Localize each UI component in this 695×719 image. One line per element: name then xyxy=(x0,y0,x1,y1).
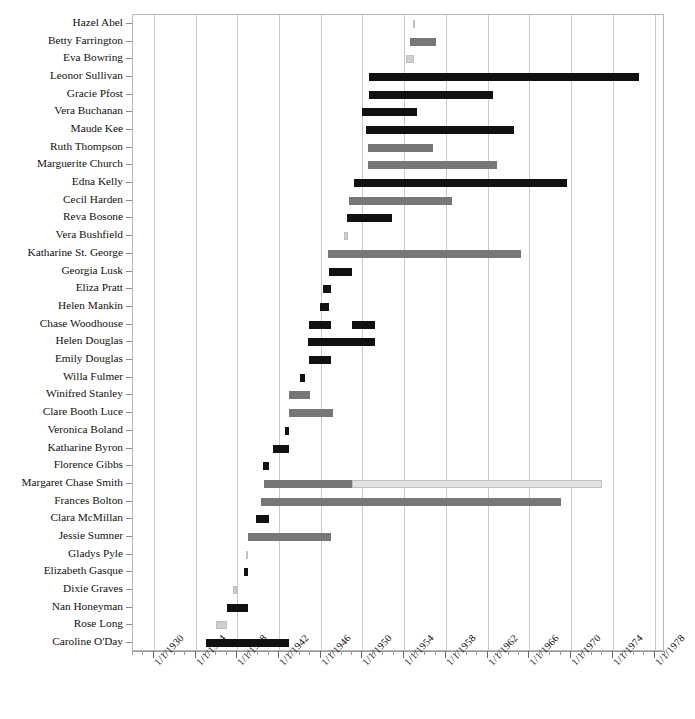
y-axis-label: Vera Buchanan xyxy=(54,104,123,116)
y-axis-label: Clare Booth Luce xyxy=(43,405,123,417)
gantt-bar xyxy=(328,250,521,258)
y-axis-label: Georgia Lusk xyxy=(61,264,123,276)
gridline xyxy=(321,15,322,650)
gantt-bar xyxy=(349,197,452,205)
y-axis-label: Frances Bolton xyxy=(54,494,123,506)
gantt-bar xyxy=(248,533,331,541)
x-axis-minor-tick xyxy=(393,651,394,655)
gantt-bar xyxy=(216,621,226,629)
gridline xyxy=(613,15,614,650)
gridline xyxy=(154,15,155,650)
gantt-bar xyxy=(413,20,415,28)
gridline xyxy=(571,15,572,650)
gantt-bar xyxy=(289,391,310,399)
x-axis-minor-tick xyxy=(351,651,352,655)
y-axis-label: Cecil Harden xyxy=(63,193,123,205)
gantt-bar xyxy=(264,480,352,488)
y-axis-label: Helen Douglas xyxy=(56,334,123,346)
gantt-bar xyxy=(369,73,639,81)
y-axis-label: Helen Mankin xyxy=(58,299,123,311)
gantt-bar xyxy=(309,356,331,364)
gantt-bar xyxy=(246,551,248,559)
y-axis-label: Elizabeth Gasque xyxy=(44,564,123,576)
gantt-bar xyxy=(285,427,289,435)
y-axis-label: Leonor Sullivan xyxy=(50,69,123,81)
gantt-bar xyxy=(323,285,331,293)
y-axis-label: Eliza Pratt xyxy=(76,281,123,293)
x-axis-minor-tick xyxy=(601,651,602,655)
y-axis-label: Gracie Pfost xyxy=(67,87,123,99)
gantt-bar xyxy=(329,268,352,276)
y-axis-label: Marguerite Church xyxy=(37,157,123,169)
gridline xyxy=(446,15,447,650)
x-axis-minor-tick xyxy=(435,651,436,655)
y-axis-label: Katharine St. George xyxy=(28,246,123,258)
x-axis-minor-tick xyxy=(184,651,185,655)
gantt-bar xyxy=(362,108,416,116)
gridline xyxy=(488,15,489,650)
y-axis-label: Dixie Graves xyxy=(63,582,123,594)
x-axis-minor-tick xyxy=(518,651,519,655)
gantt-bar xyxy=(308,338,375,346)
y-axis-label: Caroline O'Day xyxy=(52,635,123,647)
y-axis-label: Nan Honeyman xyxy=(52,600,123,612)
gantt-bar xyxy=(344,232,348,240)
y-axis-label: Vera Bushfield xyxy=(56,228,123,240)
gantt-bar xyxy=(352,321,375,329)
y-axis-label: Willa Fulmer xyxy=(63,370,123,382)
y-axis-label: Jessie Sumner xyxy=(59,529,123,541)
y-axis-label: Margaret Chase Smith xyxy=(22,476,123,488)
x-axis-minor-tick xyxy=(643,651,644,655)
y-axis-label: Chase Woodhouse xyxy=(40,317,123,329)
x-axis-minor-tick xyxy=(476,651,477,655)
y-axis-label: Betty Farrington xyxy=(48,34,123,46)
y-axis-label: Edna Kelly xyxy=(72,175,123,187)
gantt-bar xyxy=(244,568,248,576)
gantt-chart: Hazel AbelBetty FarringtonEva BowringLeo… xyxy=(0,0,695,719)
gantt-bar xyxy=(354,179,567,187)
y-axis-label: Ruth Thompson xyxy=(50,140,123,152)
gantt-bar xyxy=(352,480,602,488)
x-axis-minor-tick xyxy=(560,651,561,655)
x-axis: 1/1/19301/1/19341/1/19381/1/19421/1/1946… xyxy=(132,651,664,719)
gantt-bar xyxy=(369,91,493,99)
y-axis-label: Maude Kee xyxy=(71,122,123,134)
gridline xyxy=(279,15,280,650)
y-axis-label: Katharine Byron xyxy=(47,441,123,453)
gantt-bar xyxy=(309,321,331,329)
gridline xyxy=(529,15,530,650)
gantt-bar xyxy=(368,144,434,152)
y-axis-label: Florence Gibbs xyxy=(54,458,123,470)
x-axis-minor-tick xyxy=(142,651,143,655)
y-axis-label: Gladys Pyle xyxy=(68,547,123,559)
y-axis-label: Emily Douglas xyxy=(55,352,123,364)
gantt-bar xyxy=(410,38,435,46)
gantt-bar xyxy=(233,586,237,594)
gantt-bar xyxy=(256,515,269,523)
gantt-bar xyxy=(368,161,497,169)
gantt-bar xyxy=(227,604,248,612)
gantt-bar xyxy=(300,374,305,382)
x-axis-minor-tick xyxy=(226,651,227,655)
gridline xyxy=(237,15,238,650)
y-axis-label: Veronica Boland xyxy=(47,423,123,435)
gantt-bar xyxy=(406,55,413,63)
y-axis-label: Reva Bosone xyxy=(63,210,123,222)
gridline xyxy=(655,15,656,650)
y-axis-label: Rose Long xyxy=(74,617,123,629)
x-axis-minor-tick xyxy=(132,651,133,655)
gantt-bar xyxy=(320,303,329,311)
y-axis-label: Hazel Abel xyxy=(73,16,124,28)
y-axis-label: Clara McMillan xyxy=(51,511,123,523)
y-axis-label: Eva Bowring xyxy=(63,51,123,63)
y-axis: Hazel AbelBetty FarringtonEva BowringLeo… xyxy=(0,14,132,651)
x-axis-minor-tick xyxy=(309,651,310,655)
gantt-bar xyxy=(366,126,514,134)
gantt-bar xyxy=(273,445,290,453)
plot-area xyxy=(132,14,664,651)
x-axis-minor-tick xyxy=(268,651,269,655)
gantt-bar xyxy=(347,214,392,222)
y-axis-label: Winifred Stanley xyxy=(46,387,123,399)
gantt-bar xyxy=(263,462,268,470)
gantt-bar xyxy=(289,409,333,417)
